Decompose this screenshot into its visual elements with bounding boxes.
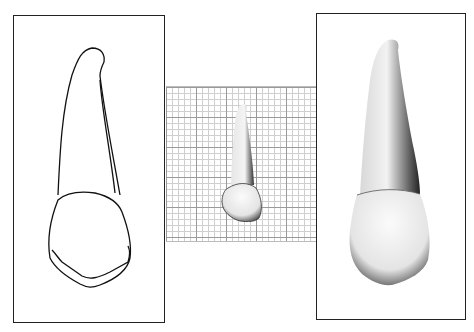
tooth-outline-drawing: [49, 48, 131, 287]
tooth-illustrations: [0, 0, 474, 332]
tooth-photo-small: [222, 104, 261, 222]
tooth-shaded-rendering: [350, 39, 430, 285]
